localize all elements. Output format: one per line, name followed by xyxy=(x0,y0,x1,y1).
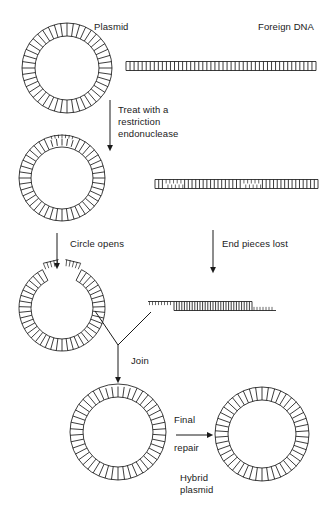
joined-and-repaired-plasmid-circle-0-rung xyxy=(140,395,148,405)
joined-and-repaired-plasmid-circle-0-rung xyxy=(75,448,87,454)
joined-and-repaired-plasmid-circle-0-rung xyxy=(136,391,143,402)
joined-and-repaired-plasmid-circle-1-rung xyxy=(271,389,275,402)
joined-and-repaired-plasmid-circle-0-rung xyxy=(75,410,87,416)
after-restriction-digest-plasmid-circle-0-rung xyxy=(34,201,42,210)
open-circle-and-fragment-plasmid-open-c-0-rung xyxy=(56,339,58,351)
joined-and-repaired-plasmid-circle-0-rung xyxy=(99,388,104,400)
joined-and-repaired-plasmid-circle-0-rung xyxy=(73,444,85,448)
joined-and-repaired-plasmid-circle-0-rung xyxy=(105,466,109,479)
starting-materials-plasmid-circle-0-outer-strand xyxy=(22,23,112,113)
starting-materials-plasmid-circle-0-rung xyxy=(96,81,108,86)
starting-materials-plasmid-circle-0-rung xyxy=(26,49,38,54)
starting-materials-plasmid-circle-0-rung xyxy=(38,92,47,102)
open-circle-and-fragment-plasmid-open-c-0-rung xyxy=(20,315,32,318)
open-circle-and-fragment-plasmid-open-c-0-rung xyxy=(74,337,79,348)
joined-and-repaired-plasmid-circle-1-rung xyxy=(271,467,275,480)
open-circle-and-fragment-plasmid-open-c-0-rung xyxy=(89,323,100,329)
starting-materials-plasmid-circle-0-rung xyxy=(96,49,108,54)
starting-materials-plasmid-circle-0-rung xyxy=(76,25,80,37)
joined-and-repaired-plasmid-circle-0-rung xyxy=(83,456,93,465)
open-circle-and-fragment-plasmid-open-c-0-sticky-rung xyxy=(78,263,81,269)
open-circle-and-fragment-plasmid-open-c-0-rung xyxy=(45,337,50,348)
open-circle-and-fragment-plasmid-open-c-0-rung xyxy=(86,280,95,288)
after-restriction-digest-plasmid-circle-0-rung xyxy=(90,160,101,165)
joined-and-repaired-plasmid-circle-0-rung xyxy=(152,422,165,425)
joined-and-repaired-plasmid-circle-1-rung xyxy=(287,457,297,466)
starting-materials-plasmid-circle-0-rung xyxy=(91,89,101,98)
joined-and-repaired-plasmid-circle-1-rung xyxy=(238,394,245,405)
joined-and-repaired-plasmid-circle-1-rung xyxy=(267,468,269,481)
joined-and-repaired-plasmid-circle-0-rung xyxy=(127,466,131,479)
joined-and-repaired-plasmid-circle-1-rung xyxy=(287,402,297,411)
after-restriction-digest-plasmid-circle-0-rung xyxy=(92,166,104,169)
after-restriction-digest-plasmid-circle-0-rung xyxy=(71,208,74,220)
after-restriction-digest-plasmid-circle-0-rung xyxy=(90,191,101,196)
after-restriction-digest-plasmid-circle-0-rung xyxy=(79,204,85,214)
joined-and-repaired-plasmid-circle-0-rung xyxy=(88,395,96,405)
after-restriction-digest-plasmid-circle-0-rung xyxy=(26,195,36,201)
joined-and-repaired-plasmid-circle-0-inner-strand xyxy=(83,397,153,467)
label-circle-opens: Circle opens xyxy=(70,238,124,249)
joined-and-repaired-plasmid-circle-1-rung xyxy=(224,407,235,414)
starting-materials-plasmid-circle-0-rung xyxy=(76,99,80,111)
starting-materials-plasmid-circle-0-rung xyxy=(43,95,50,106)
after-restriction-digest-plasmid-circle-0-rung xyxy=(88,155,98,161)
starting-materials-plasmid-circle-0-rung xyxy=(98,77,110,81)
joined-and-repaired-plasmid-circle-1-rung xyxy=(292,450,304,456)
after-restriction-digest-plasmid-circle-0-rung xyxy=(56,209,58,221)
joined-and-repaired-plasmid-circle-1-rung xyxy=(280,394,287,405)
joined-and-repaired-plasmid-circle-0-rung xyxy=(99,464,104,476)
joined-and-repaired-plasmid-circle-1-rung xyxy=(215,436,228,437)
open-circle-and-fragment-plasmid-open-c-0-rung xyxy=(42,270,47,281)
open-circle-and-fragment-plasmid-open-c-0-rung xyxy=(84,330,93,338)
joined-and-repaired-plasmid-circle-0-rung xyxy=(144,456,154,465)
open-circle-and-fragment-plasmid-open-c-0-rung xyxy=(78,335,84,345)
after-restriction-digest-plasmid-circle-0-rung xyxy=(30,198,39,206)
after-restriction-digest-plasmid-circle-0-rung xyxy=(44,139,49,150)
joined-and-repaired-plasmid-circle-0-rung xyxy=(140,459,148,469)
label-final: Final xyxy=(174,414,195,425)
joined-and-repaired-plasmid-circle-0-rung xyxy=(151,444,163,448)
after-restriction-digest-plasmid-circle-0-rung xyxy=(85,150,94,158)
open-circle-and-fragment-plasmid-open-c-0-rung xyxy=(33,276,41,285)
open-circle-and-fragment-plasmid-open-c-0-rung xyxy=(80,273,87,283)
starting-materials-plasmid-circle-0-rung xyxy=(88,92,97,102)
starting-materials-plasmid-circle-0-rung xyxy=(99,62,112,64)
joined-and-repaired-plasmid-circle-1-rung xyxy=(232,398,240,408)
joined-and-repaired-plasmid-circle-1-rung xyxy=(290,407,301,414)
after-restriction-digest-plasmid-circle-0-rung xyxy=(19,182,31,184)
after-restriction-digest-plasmid-circle-0-rung xyxy=(21,187,33,190)
joined-and-repaired-plasmid-circle-1-rung xyxy=(218,445,230,449)
after-restriction-digest-plasmid-circle-0-rung xyxy=(34,146,42,155)
joined-and-repaired-plasmid-circle-1-rung xyxy=(294,445,306,449)
joined-and-repaired-plasmid-circle-0-rung xyxy=(152,439,165,442)
after-restriction-digest-plasmid-circle-0-rung xyxy=(26,155,36,161)
starting-materials-plasmid-circle-0-rung xyxy=(80,27,85,39)
label-end-pieces-lost: End pieces lost xyxy=(222,238,288,249)
starting-materials-plasmid-circle-0-rung xyxy=(94,44,105,51)
label-join: Join xyxy=(131,355,149,366)
joined-and-repaired-plasmid-circle-1-rung xyxy=(295,441,308,444)
joined-and-repaired-plasmid-circle-0-rung xyxy=(153,429,166,430)
label-hybrid-line2: plasmid xyxy=(180,484,213,495)
joined-and-repaired-plasmid-circle-0-rung xyxy=(93,391,100,402)
open-circle-and-fragment-plasmid-open-c-0-rung xyxy=(93,301,105,303)
starting-materials-plasmid-circle-0-rung xyxy=(72,100,74,113)
open-circle-and-fragment-plasmid-open-c-0-strand xyxy=(31,280,93,339)
joined-and-repaired-plasmid-circle-1-rung xyxy=(276,465,281,477)
joined-and-repaired-plasmid-circle-1-rung xyxy=(283,460,291,470)
after-restriction-digest-plasmid-circle-0-rung xyxy=(51,140,53,147)
joined-and-repaired-plasmid-circle-0-rung xyxy=(147,404,158,411)
starting-materials-plasmid-circle-0-rung xyxy=(54,25,58,37)
after-restriction-digest-plasmid-circle-0-rung xyxy=(23,191,34,196)
starting-materials-plasmid-circle-0-rung xyxy=(84,95,91,106)
starting-materials-plasmid-circle-0-rung xyxy=(29,85,40,92)
joined-and-repaired-plasmid-circle-1-rung xyxy=(292,412,304,418)
joined-and-repaired-plasmid-circle-1-rung xyxy=(276,391,281,403)
joined-and-repaired-plasmid-circle-1-rung xyxy=(249,467,253,480)
after-restriction-digest-plasmid-circle-0-rung xyxy=(92,187,104,190)
starting-materials-plasmid-circle-0-rung xyxy=(33,39,43,48)
joined-and-repaired-plasmid-circle-0-outer-strand xyxy=(70,384,166,480)
after-restriction-digest-plasmid-circle-0-rung xyxy=(30,150,39,158)
joined-and-repaired-plasmid-circle-1-rung xyxy=(228,402,238,411)
